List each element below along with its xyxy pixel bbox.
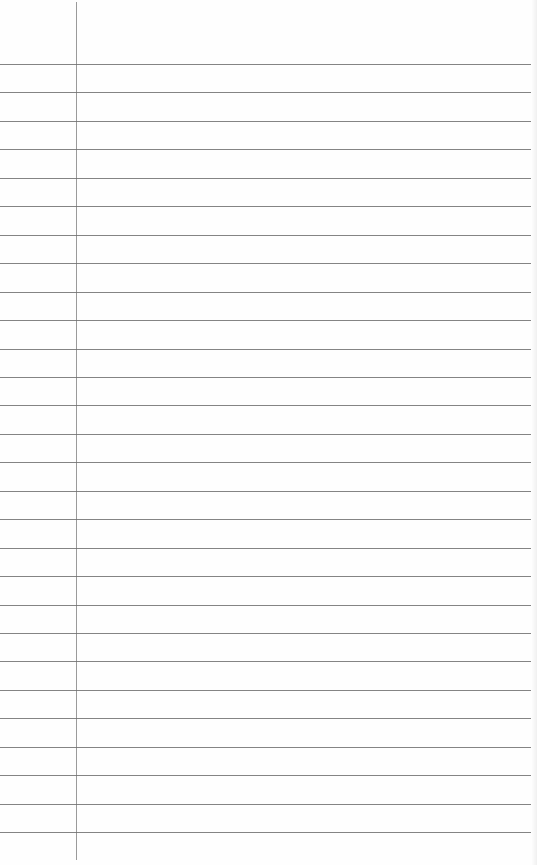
ruled-line [0, 92, 532, 93]
ruled-line [0, 292, 532, 293]
ruled-line [0, 64, 532, 65]
ruled-line [0, 718, 532, 719]
ruled-line [0, 178, 532, 179]
ruled-line [0, 405, 532, 406]
ruled-line [0, 149, 532, 150]
margin-line [76, 2, 77, 860]
ruled-line [0, 263, 532, 264]
ruled-line [0, 320, 532, 321]
ruled-line [0, 775, 532, 776]
ruled-line [0, 832, 532, 833]
ruled-line [0, 206, 532, 207]
ruled-line [0, 491, 532, 492]
ruled-line [0, 576, 532, 577]
ruled-line [0, 548, 532, 549]
ruled-line [0, 519, 532, 520]
ruled-line [0, 349, 532, 350]
ruled-line [0, 377, 532, 378]
notebook-page [0, 0, 537, 865]
ruled-line [0, 804, 532, 805]
ruled-line [0, 690, 532, 691]
page-edge-shadow [531, 0, 537, 865]
ruled-line [0, 605, 532, 606]
ruled-line [0, 633, 532, 634]
ruled-line [0, 434, 532, 435]
ruled-line [0, 661, 532, 662]
ruled-line [0, 747, 532, 748]
ruled-line [0, 235, 532, 236]
ruled-line [0, 121, 532, 122]
ruled-line [0, 462, 532, 463]
